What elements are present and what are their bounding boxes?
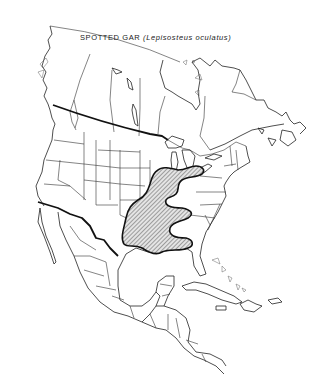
canada-us-border: [53, 105, 168, 140]
us-state-lines-east: [190, 176, 226, 230]
us-pacific-coast: [36, 130, 53, 206]
lake-superior: [165, 136, 184, 148]
quebec-labrador-boundary: [232, 70, 256, 100]
hudson-bay: [160, 58, 215, 110]
central-america: [142, 306, 226, 374]
arctic-frame-line: [50, 26, 180, 62]
us-mexico-border: [38, 202, 118, 256]
bahamas: [212, 258, 246, 292]
sask-manitoba-boundary: [139, 78, 140, 136]
atlantic-coast-ne: [222, 146, 250, 204]
us-state-lines-west: [44, 132, 96, 205]
hispaniola: [240, 300, 262, 312]
species-range-area: [122, 166, 203, 254]
quebec-ontario-boundary: [200, 96, 210, 150]
north-america-range-map: [0, 0, 321, 388]
pacific-coast-canada: [42, 26, 55, 130]
st-lawrence: [210, 124, 284, 150]
cuba: [182, 282, 242, 304]
lake-winnipeg: [132, 104, 138, 126]
jamaica: [216, 306, 226, 310]
labrador-coast: [215, 60, 306, 134]
manitoba-ontario-boundary: [158, 96, 165, 134]
baja-california: [38, 208, 56, 264]
yucatan: [156, 276, 174, 306]
